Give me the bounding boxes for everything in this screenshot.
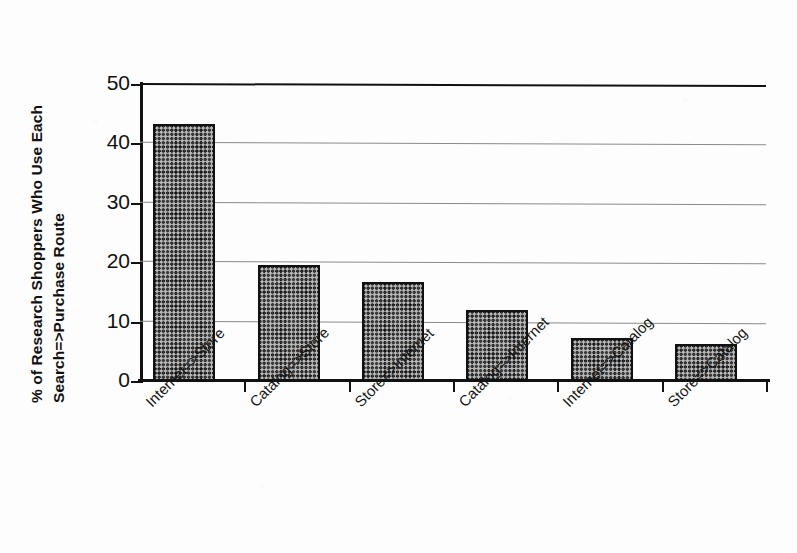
x-axis-tick-6 — [766, 381, 768, 392]
gridline-20 — [140, 261, 766, 264]
x-axis-tick-4 — [557, 381, 559, 392]
chart-figure: % of Research Shoppers Who Use Each Sear… — [0, 0, 797, 553]
x-axis-tick-3 — [453, 381, 455, 392]
x-axis-tick-1 — [244, 381, 246, 392]
x-axis-tick-5 — [662, 381, 664, 392]
y-axis-tick-label-30: 30 — [86, 190, 130, 214]
y-axis-title: % of Research Shoppers Who Use Each Sear… — [2, 30, 80, 405]
x-axis-tick-2 — [349, 381, 351, 392]
y-axis-tick-labels: 01020304050 — [78, 0, 130, 553]
y-axis-tick-label-40: 40 — [86, 130, 130, 154]
y-axis-tick-label-20: 20 — [86, 249, 130, 273]
y-axis-tick-label-0: 0 — [86, 368, 130, 392]
gridline-40 — [140, 142, 766, 145]
y-axis-tick-label-50: 50 — [86, 71, 130, 95]
y-axis-title-line-2: Search=>Purchase Route — [50, 213, 68, 403]
y-axis-tick-20 — [131, 262, 141, 264]
y-axis-tick-30 — [131, 203, 141, 205]
gridline-30 — [140, 202, 766, 205]
y-axis-tick-50 — [131, 84, 141, 86]
y-axis-tick-10 — [131, 322, 141, 324]
y-axis-tick-40 — [131, 143, 141, 145]
gridline-50 — [140, 83, 766, 87]
plot-area — [140, 84, 766, 381]
y-axis-tick-0 — [131, 381, 141, 383]
gridline-10 — [140, 320, 766, 323]
y-axis-tick-label-10: 10 — [86, 309, 130, 333]
y-axis-title-line-1: % of Research Shoppers Who Use Each — [28, 105, 46, 403]
